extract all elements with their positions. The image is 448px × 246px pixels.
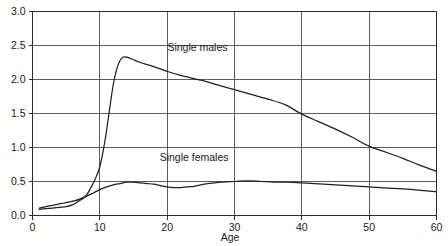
y-tick-label: 1.5	[11, 107, 26, 119]
series-annotations: Single malesSingle females	[160, 41, 229, 163]
series-curve-single-females	[39, 181, 436, 210]
x-tick-label: 0	[30, 221, 36, 233]
chart-figure: 01020304050600.00.51.01.52.02.53.0 Singl…	[0, 0, 448, 246]
series-annotation-label: Single females	[160, 151, 229, 163]
x-tick-label: 40	[296, 221, 308, 233]
x-axis-title: Age	[221, 231, 240, 243]
x-tick-label: 50	[363, 221, 375, 233]
axis-tick-labels: 01020304050600.00.51.01.52.02.53.0	[11, 5, 443, 232]
y-tick-label: 1.0	[11, 141, 26, 153]
y-tick-label: 2.0	[11, 73, 26, 85]
y-tick-label: 3.0	[11, 5, 26, 17]
x-tick-label: 10	[94, 221, 106, 233]
axis-ticks	[29, 12, 437, 220]
y-tick-label: 0.0	[11, 209, 26, 221]
series-annotation-label: Single males	[167, 41, 227, 53]
y-tick-label: 2.5	[11, 39, 26, 51]
line-chart: 01020304050600.00.51.01.52.02.53.0 Singl…	[0, 0, 448, 246]
y-tick-label: 0.5	[11, 175, 26, 187]
x-tick-label: 60	[431, 221, 443, 233]
x-tick-label: 20	[161, 221, 173, 233]
grid-lines	[33, 12, 437, 216]
